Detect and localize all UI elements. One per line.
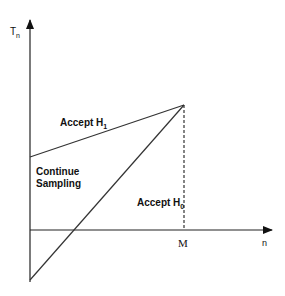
x-tick-label-m: M (178, 237, 188, 249)
x-axis-label: n (262, 238, 267, 248)
region-label-accept-h0: Accept H0 (137, 197, 184, 210)
region-label-sampling: Sampling (36, 178, 81, 189)
y-axis-label: Tn (10, 26, 20, 39)
region-label-accept-h1: Accept H1 (60, 117, 107, 130)
region-label-continue: Continue (36, 166, 80, 177)
sequential-test-diagram: Tn n M Accept H1 Continue Sampling Accep… (0, 0, 285, 296)
